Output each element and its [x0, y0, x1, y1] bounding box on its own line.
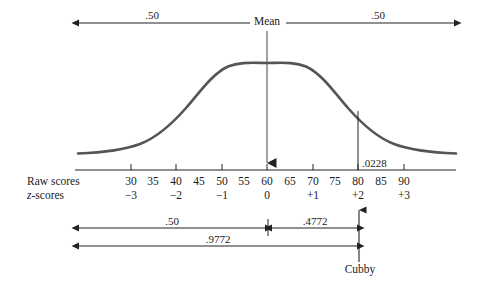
- raw-score-85: 85: [375, 176, 387, 188]
- raw-score-50: 50: [216, 176, 228, 188]
- raw-score-70: 70: [307, 176, 319, 188]
- raw-score-75: 75: [329, 176, 341, 188]
- raw-score-90: 90: [398, 176, 410, 188]
- top-left-area-label: .50: [145, 10, 159, 21]
- z-score-minus1: −1: [216, 190, 228, 202]
- raw-scores-row-label: Raw scores: [27, 176, 80, 188]
- z-score-plus1: +1: [307, 190, 319, 202]
- top-right-area-label: .50: [371, 10, 385, 21]
- raw-score-60: 60: [261, 176, 273, 188]
- bottom-total-label: .9772: [206, 234, 231, 245]
- z-score-plus2: +2: [352, 190, 364, 202]
- z-scores-row-label: z-scores: [27, 190, 64, 202]
- raw-score-80: 80: [352, 176, 364, 188]
- figure-canvas: [0, 0, 483, 287]
- normal-distribution-figure: .50 Mean .50 .0228 Raw scores z-scores 3…: [0, 0, 483, 287]
- raw-score-55: 55: [238, 176, 250, 188]
- raw-score-30: 30: [125, 176, 137, 188]
- raw-score-35: 35: [147, 176, 159, 188]
- z-score-minus2: −2: [170, 190, 182, 202]
- cubby-label: Cubby: [345, 264, 376, 276]
- mean-label: Mean: [254, 16, 280, 28]
- z-score-plus3: +3: [398, 190, 410, 202]
- raw-score-65: 65: [284, 176, 296, 188]
- z-scores-suffix: -scores: [31, 189, 64, 201]
- bottom-mean-to-z2-label: .4772: [303, 216, 328, 227]
- z-score-0: 0: [264, 190, 270, 202]
- tail-area-label: .0228: [362, 158, 387, 169]
- raw-score-40: 40: [170, 176, 182, 188]
- z-score-minus3: −3: [125, 190, 137, 202]
- bottom-left-half-label: .50: [165, 216, 179, 227]
- raw-score-45: 45: [193, 176, 205, 188]
